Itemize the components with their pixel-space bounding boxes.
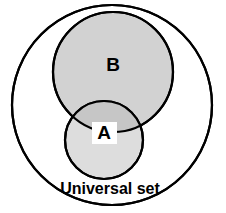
venn-diagram-container: B A Universal set bbox=[0, 0, 226, 213]
set-a-label: A bbox=[97, 122, 111, 143]
venn-diagram-canvas: B A Universal set bbox=[0, 0, 226, 213]
universal-set-label: Universal set bbox=[60, 180, 160, 197]
set-b-label: B bbox=[106, 54, 120, 75]
